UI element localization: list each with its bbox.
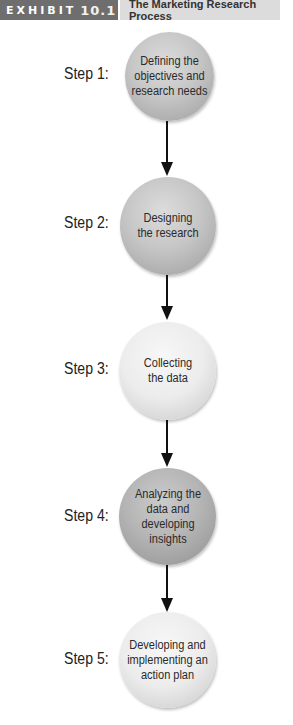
step-2-circle: Designing the research [120, 177, 216, 275]
exhibit-number: 10.1 [80, 3, 116, 18]
arrow-3-to-4 [166, 420, 168, 455]
step-3-text: Collecting the data [136, 356, 199, 386]
exhibit-tag: EXHIBIT 10.1 [0, 0, 118, 20]
step-2-text: Designing the research [136, 211, 199, 241]
arrow-4-to-5 [166, 565, 168, 600]
step-3-circle: Collecting the data [119, 322, 216, 420]
step-1-text: Defining the objectives and research nee… [130, 54, 208, 99]
arrow-1-to-2 [166, 121, 168, 164]
exhibit-label: EXHIBIT [6, 4, 76, 17]
step-1-circle: Defining the objectives and research nee… [125, 32, 214, 121]
step-2-label: Step 2: [64, 214, 109, 232]
step-5-text: Developing and implementing an action pl… [125, 638, 210, 683]
step-4-text: Analyzing the data and developing insigh… [125, 487, 209, 547]
step-1-label: Step 1: [64, 65, 109, 83]
arrow-2-to-3 [166, 275, 168, 308]
step-5-label: Step 5: [64, 650, 109, 668]
step-3-label: Step 3: [64, 360, 109, 378]
exhibit-title: The Marketing Research Process [120, 0, 280, 20]
step-4-label: Step 4: [64, 507, 109, 525]
exhibit-header: EXHIBIT 10.1 The Marketing Research Proc… [0, 0, 280, 20]
step-4-circle: Analyzing the data and developing insigh… [119, 468, 216, 565]
step-5-circle: Developing and implementing an action pl… [119, 612, 216, 708]
